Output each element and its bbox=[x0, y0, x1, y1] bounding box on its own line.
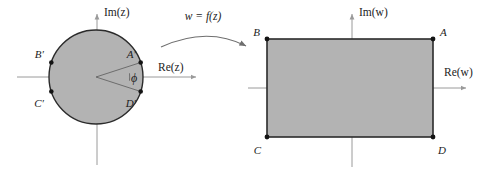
w-plane-group: A B C D Im(w) Re(w) bbox=[248, 6, 473, 167]
point-d-dot bbox=[431, 135, 436, 140]
figure-canvas: A′ B′ C′ D′ ϕ Im(z) Re(z) w = f(z) bbox=[0, 0, 500, 172]
point-d-prime-dot bbox=[138, 89, 143, 94]
mapping-label: w = f(z) bbox=[185, 10, 222, 23]
point-d-label: D bbox=[437, 144, 446, 156]
complex-mapping-figure: A′ B′ C′ D′ ϕ Im(z) Re(z) w = f(z) bbox=[0, 0, 500, 172]
point-a-label: A bbox=[439, 26, 447, 38]
point-b-prime-label: B′ bbox=[35, 48, 45, 60]
z-real-axis-label: Re(z) bbox=[158, 61, 184, 74]
point-d-prime-label: D′ bbox=[125, 97, 137, 109]
w-image-rectangle bbox=[267, 39, 433, 137]
z-plane-group: A′ B′ C′ D′ ϕ Im(z) Re(z) bbox=[17, 6, 196, 165]
point-c-prime-dot bbox=[49, 89, 54, 94]
point-a-dot bbox=[431, 37, 436, 42]
point-b-label: B bbox=[253, 26, 260, 38]
point-b-prime-dot bbox=[49, 60, 54, 65]
mapping-arrow-group: w = f(z) bbox=[161, 10, 246, 47]
point-c-prime-label: C′ bbox=[34, 97, 44, 109]
point-a-prime-label: A′ bbox=[126, 48, 137, 60]
w-real-axis-label: Re(w) bbox=[444, 66, 473, 79]
point-c-label: C bbox=[254, 144, 262, 156]
angle-phi-label: ϕ bbox=[131, 71, 137, 85]
point-a-prime-dot bbox=[138, 60, 143, 65]
point-c-dot bbox=[265, 135, 270, 140]
curved-arrow bbox=[161, 36, 246, 47]
w-imaginary-axis-label: Im(w) bbox=[359, 6, 388, 19]
z-imaginary-axis-label: Im(z) bbox=[104, 6, 130, 19]
point-b-dot bbox=[265, 37, 270, 42]
